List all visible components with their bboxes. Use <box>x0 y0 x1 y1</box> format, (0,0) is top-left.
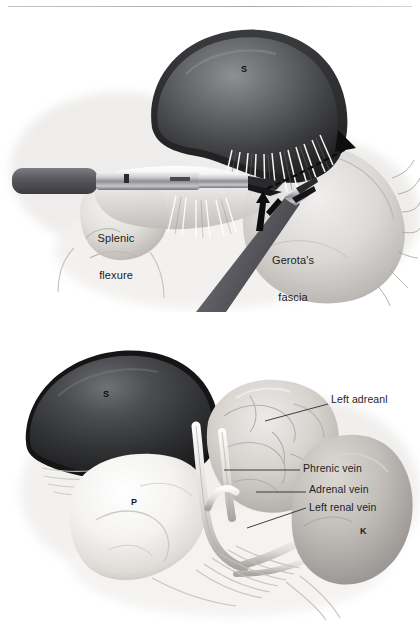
callout-left-adrenal: Left adreanl <box>331 394 388 406</box>
callout-phrenic-vein: Phrenic vein <box>303 463 362 475</box>
organ-key-spleen-top: S <box>241 64 247 74</box>
organ-key-pancreas: P <box>131 497 137 507</box>
label-gerotas-fascia-line2: fascia <box>262 291 324 303</box>
callout-adrenal-vein: Adrenal vein <box>309 484 369 496</box>
label-gerotas-fascia-line1: Gerota's <box>262 254 324 266</box>
label-splenic-flexure-line2: flexure <box>85 269 147 281</box>
organ-key-spleen-bottom: S <box>103 389 109 399</box>
label-splenic-flexure-line1: Splenic <box>85 232 147 244</box>
label-splenic-flexure: Splenic flexure <box>85 207 147 306</box>
medical-illustration-figure: S Splenic flexure Gerota's fascia <box>0 0 420 624</box>
organ-key-kidney: K <box>360 526 367 536</box>
callout-left-renal-vein: Left renal vein <box>309 502 376 514</box>
panel-splenic-flexure-mobilization: S Splenic flexure Gerota's fascia <box>0 0 420 312</box>
panel-adrenal-venous-anatomy: S P K Left adreanl Phrenic vein Adrenal … <box>0 312 420 624</box>
label-gerotas-fascia: Gerota's fascia <box>262 229 324 312</box>
